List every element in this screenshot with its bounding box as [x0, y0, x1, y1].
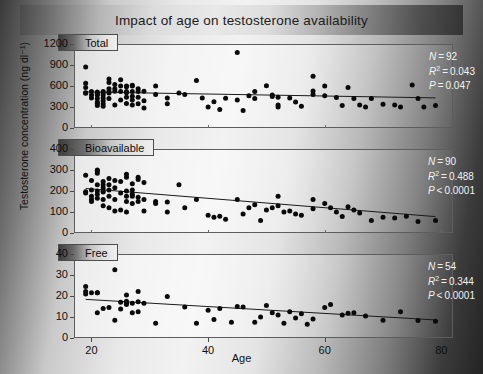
- data-point: [83, 191, 88, 196]
- data-point: [124, 302, 129, 307]
- data-point: [206, 105, 211, 110]
- data-point: [398, 105, 403, 110]
- data-point: [106, 205, 111, 210]
- data-point: [118, 89, 123, 94]
- y-tick-mark: [70, 212, 74, 213]
- data-point: [194, 78, 199, 83]
- data-point: [346, 85, 351, 90]
- data-point: [141, 301, 146, 306]
- data-point: [276, 194, 281, 199]
- data-point: [153, 84, 158, 89]
- stat-r2: R2 = 0.344: [428, 274, 475, 289]
- data-point: [141, 208, 146, 213]
- x-tick-mark: [441, 338, 442, 342]
- y-tick-label: 300: [24, 100, 68, 112]
- data-point: [89, 178, 94, 183]
- data-point: [112, 102, 117, 107]
- y-tick-label: 900: [24, 58, 68, 70]
- data-point: [89, 95, 94, 100]
- y-tick-mark: [70, 317, 74, 318]
- data-point: [276, 105, 281, 110]
- panel-stats: N = 90R2 = 0.488P < 0.0001: [428, 155, 475, 198]
- data-point: [112, 318, 117, 323]
- y-tick-label: 0: [24, 331, 68, 343]
- data-point: [112, 267, 117, 272]
- data-point: [200, 95, 205, 100]
- data-point: [433, 319, 438, 324]
- y-tick-mark: [70, 44, 74, 45]
- data-point: [311, 92, 316, 97]
- data-point: [130, 102, 135, 107]
- data-point: [95, 310, 100, 315]
- x-tick-mark: [325, 338, 326, 342]
- x-minor-tick-mark: [208, 230, 209, 233]
- data-point: [176, 182, 181, 187]
- y-tick-mark: [70, 107, 74, 108]
- stat-n: N = 92: [429, 50, 475, 64]
- data-point: [334, 95, 339, 100]
- y-tick-mark: [70, 170, 74, 171]
- data-point: [293, 212, 298, 217]
- x-minor-tick-mark: [91, 230, 92, 233]
- data-point: [211, 317, 216, 322]
- data-point: [217, 214, 222, 219]
- data-point: [118, 77, 123, 82]
- data-point: [141, 89, 146, 94]
- x-minor-tick-mark: [325, 125, 326, 128]
- y-tick-mark: [70, 338, 74, 339]
- data-point: [130, 84, 135, 89]
- data-point: [95, 171, 100, 176]
- data-point: [211, 215, 216, 220]
- data-point: [136, 95, 141, 100]
- data-point: [421, 105, 426, 110]
- data-point: [293, 316, 298, 321]
- y-tick-label: 100: [24, 205, 68, 217]
- data-point: [118, 300, 123, 305]
- data-point: [141, 197, 146, 202]
- data-point: [410, 82, 415, 87]
- scatter-panel-total: Total: [74, 44, 453, 128]
- panel-stats: N = 92R2 = 0.043P = 0.047: [429, 50, 475, 93]
- y-tick-label: 300: [24, 163, 68, 175]
- data-point: [357, 211, 362, 216]
- y-tick-label: 30: [24, 268, 68, 280]
- data-point: [287, 208, 292, 213]
- data-point: [89, 187, 94, 192]
- data-point: [182, 205, 187, 210]
- data-point: [416, 219, 421, 224]
- data-point: [112, 89, 117, 94]
- data-point: [124, 95, 129, 100]
- x-tick-label: 40: [193, 344, 223, 356]
- y-tick-label: 10: [24, 310, 68, 322]
- data-point: [153, 321, 158, 326]
- stat-n: N = 90: [428, 155, 475, 169]
- data-point: [165, 210, 170, 215]
- data-point: [83, 65, 88, 70]
- data-point: [106, 80, 111, 85]
- data-point: [293, 100, 298, 105]
- data-point: [264, 83, 269, 88]
- data-point: [136, 101, 141, 106]
- data-point: [83, 291, 88, 296]
- data-point: [252, 202, 257, 207]
- data-point: [89, 290, 94, 295]
- data-point: [136, 289, 141, 294]
- data-point: [118, 191, 123, 196]
- data-point: [206, 308, 211, 313]
- figure-root: Impact of age on testosterone availabili…: [0, 0, 483, 374]
- data-point: [287, 309, 292, 314]
- plot-canvas: [74, 254, 453, 338]
- data-point: [340, 103, 345, 108]
- data-point: [112, 208, 117, 213]
- data-point: [223, 96, 228, 101]
- x-minor-tick-mark: [441, 125, 442, 128]
- data-point: [322, 201, 327, 206]
- data-point: [392, 215, 397, 220]
- data-point: [124, 210, 129, 215]
- y-tick-label: 600: [24, 79, 68, 91]
- x-tick-mark: [91, 338, 92, 342]
- data-point: [130, 181, 135, 186]
- data-point: [322, 93, 327, 98]
- plot-canvas: [74, 149, 453, 233]
- stat-r2: R2 = 0.043: [429, 64, 475, 79]
